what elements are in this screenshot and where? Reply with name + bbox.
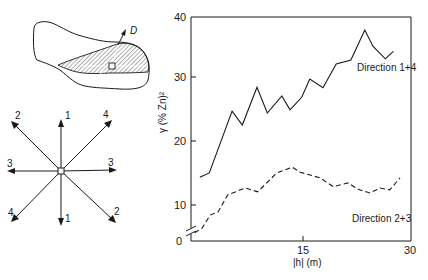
direction-rose: [7, 119, 117, 226]
rose-center-icon: [58, 168, 64, 174]
orebody-sketch: D: [33, 22, 149, 90]
rose-label-n: 1: [65, 110, 71, 121]
y-tick-40: 40: [174, 11, 186, 23]
rose-label-e: 3: [108, 157, 114, 168]
x-axis-label: |h| (m): [293, 257, 322, 268]
series-label-direction-1-4: Direction 1+4: [357, 62, 417, 73]
series-label-direction-2-3: Direction 2+3: [352, 213, 412, 224]
rose-label-s: 1: [65, 213, 71, 224]
rose-label-w: 3: [7, 158, 13, 169]
series-direction-1-4: [200, 30, 394, 177]
y-tick-0: 0: [176, 235, 182, 247]
y-tick-10: 10: [174, 199, 186, 211]
rose-label-sw: 4: [8, 207, 14, 218]
y-tick-30: 30: [174, 71, 186, 83]
x-tick-30: 30: [404, 244, 416, 256]
rose-label-ne: 4: [103, 109, 109, 120]
sample-point-icon: [109, 63, 115, 69]
direction-d-label: D: [130, 25, 137, 36]
x-tick-15: 15: [297, 244, 309, 256]
direction-arrow-icon: [121, 29, 126, 36]
rose-label-nw: 2: [15, 110, 21, 121]
y-ticks: [191, 77, 196, 205]
rose-label-se: 2: [114, 206, 120, 217]
hatched-zone: [58, 43, 149, 73]
y-tick-20: 20: [174, 135, 186, 147]
y-axis-label: γ (% Zn)²: [157, 91, 168, 133]
figure: D 1 1 2 2 3 3 4 4: [0, 0, 428, 280]
